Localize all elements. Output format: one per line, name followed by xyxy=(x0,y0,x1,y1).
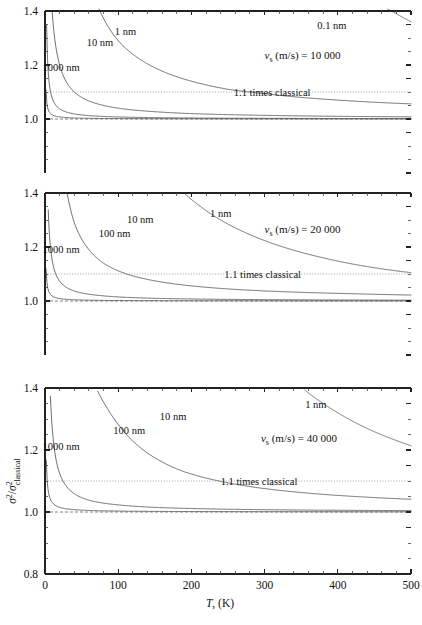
figure-canvas: 1.01.21.40.1 nm1 nm10 nm1000 nm1.1 times… xyxy=(0,0,422,625)
y-tick-label: 1.2 xyxy=(24,59,39,71)
vs-text: (m/s) = 10 000 xyxy=(273,49,341,62)
x-tick-label: 0 xyxy=(42,579,48,591)
y-tick-label: 1.2 xyxy=(24,444,39,456)
x-axis: 0100200300400500 xyxy=(42,569,420,591)
y-tick-label: 0.8 xyxy=(24,568,39,580)
y-title-sub-den: classical xyxy=(13,457,22,485)
vs-annotation: νs (m/s) = 40 000 xyxy=(261,432,337,447)
x-tick-label: 200 xyxy=(183,579,201,591)
curve-label-1000-nm: 1000 nm xyxy=(43,244,80,255)
y-tick-label: 1.4 xyxy=(24,5,39,17)
reference-label-1p1: 1.1 times classical xyxy=(221,476,298,487)
y-tick-label: 1.4 xyxy=(24,187,39,199)
vs-annotation: νs (m/s) = 20 000 xyxy=(265,223,341,238)
panel-top: 1.01.21.40.1 nm1 nm10 nm1000 nm1.1 times… xyxy=(24,5,411,173)
curve-label-1-nm: 1 nm xyxy=(305,399,326,410)
vs-annotation: νs (m/s) = 10 000 xyxy=(265,49,341,64)
reference-label-1p1: 1.1 times classical xyxy=(234,87,311,98)
vs-text: (m/s) = 20 000 xyxy=(273,223,341,236)
y-tick-label: 1.0 xyxy=(24,295,39,307)
reference-label-1p1: 1.1 times classical xyxy=(224,269,301,280)
curve-label-100-nm: 100 nm xyxy=(99,228,131,239)
x-tick-label: 100 xyxy=(110,579,128,591)
y-tick-label: 1.0 xyxy=(24,506,39,518)
curve-label-1000-nm: 1000 nm xyxy=(43,441,80,452)
x-axis-title: T, (K) xyxy=(206,597,234,610)
x-tick-label: 400 xyxy=(329,579,347,591)
y-tick-label: 1.0 xyxy=(24,113,39,125)
vs-text: (m/s) = 40 000 xyxy=(269,432,337,445)
curve-100-nm xyxy=(50,396,411,510)
figure-root: 1.01.21.40.1 nm1 nm10 nm1000 nm1.1 times… xyxy=(0,0,422,625)
panel-middle: 1.01.21.41 nm10 nm100 nm1000 nm1.1 times… xyxy=(24,187,411,355)
curve-label-100-nm: 100 nm xyxy=(113,425,145,436)
curve-label-1-nm: 1 nm xyxy=(210,208,231,219)
y-axis-title: σ2/σ2classical xyxy=(5,457,22,503)
panel-bottom: 0.81.01.21.41 nm10 nm100 nm1000 nm1.1 ti… xyxy=(24,382,411,580)
x-tick-label: 500 xyxy=(402,579,420,591)
curve-label-1-nm: 1 nm xyxy=(115,26,136,37)
curve-10-nm xyxy=(67,194,411,295)
y-tick-label: 1.4 xyxy=(24,382,39,394)
curve-label-1000-nm: 1000 nm xyxy=(43,62,80,73)
curve-label-0-1-nm: 0.1 nm xyxy=(317,20,346,31)
curve-label-10-nm: 10 nm xyxy=(160,411,187,422)
x-axis-title-rest: , (K) xyxy=(212,597,234,610)
y-tick-label: 1.2 xyxy=(24,241,39,253)
curve-label-10-nm: 10 nm xyxy=(87,37,114,48)
curve-label-10-nm: 10 nm xyxy=(127,214,154,225)
x-tick-label: 300 xyxy=(256,579,274,591)
curve-100-nm xyxy=(48,210,411,300)
